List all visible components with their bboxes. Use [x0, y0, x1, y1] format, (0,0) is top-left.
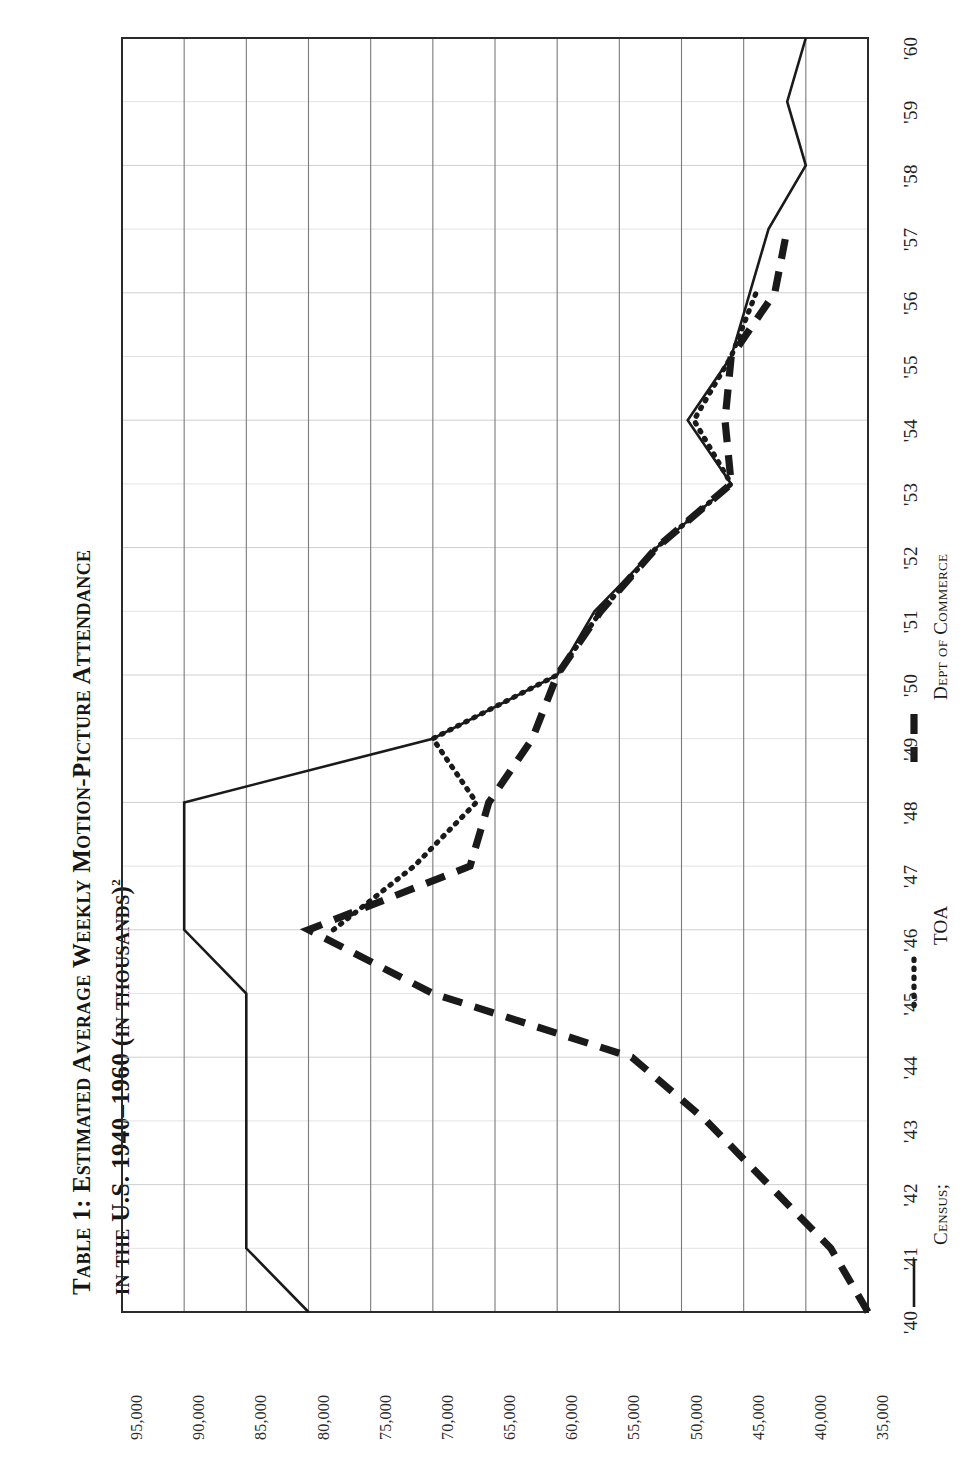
- year-tick-label: '45: [900, 992, 922, 1015]
- value-tick-label: 40,000: [812, 1395, 830, 1440]
- value-tick-label: 35,000: [874, 1395, 892, 1440]
- year-tick-label: '56: [900, 291, 922, 314]
- value-tick-label: 85,000: [252, 1395, 270, 1440]
- year-tick-label: '48: [900, 801, 922, 824]
- legend-label-toa: TOA: [930, 905, 952, 945]
- year-tick-label: '53: [900, 483, 922, 506]
- year-tick-label: '49: [900, 737, 922, 760]
- year-tick-label: '42: [900, 1183, 922, 1206]
- value-tick-label: 60,000: [563, 1395, 581, 1440]
- value-tick-label: 90,000: [190, 1395, 208, 1440]
- year-tick-label: '41: [900, 1247, 922, 1270]
- year-tick-label: '54: [900, 419, 922, 442]
- attendance-line-chart: [0, 0, 975, 1465]
- year-tick-label: '60: [900, 37, 922, 60]
- year-tick-label: '55: [900, 355, 922, 378]
- legend-label-dept-of-commerce: Dept of Commerce: [930, 554, 952, 700]
- series-line-dept-of-commerce: [309, 229, 869, 1312]
- year-tick-label: '44: [900, 1056, 922, 1079]
- value-tick-label: 55,000: [625, 1395, 643, 1440]
- year-tick-label: '43: [900, 1120, 922, 1143]
- year-tick-label: '59: [900, 100, 922, 123]
- year-tick-label: '50: [900, 674, 922, 697]
- value-tick-label: 50,000: [688, 1395, 706, 1440]
- year-tick-label: '51: [900, 610, 922, 633]
- year-tick-label: '47: [900, 865, 922, 888]
- year-tick-label: '52: [900, 546, 922, 569]
- year-tick-label: '58: [900, 164, 922, 187]
- legend-label-census-: Census;: [930, 1184, 952, 1245]
- value-tick-label: 95,000: [128, 1395, 146, 1440]
- year-tick-label: '57: [900, 228, 922, 251]
- year-tick-label: '40: [900, 1311, 922, 1334]
- value-tick-label: 70,000: [439, 1395, 457, 1440]
- value-tick-label: 80,000: [315, 1395, 333, 1440]
- value-tick-label: 75,000: [377, 1395, 395, 1440]
- value-tick-label: 45,000: [750, 1395, 768, 1440]
- year-tick-label: '46: [900, 928, 922, 951]
- value-tick-label: 65,000: [501, 1395, 519, 1440]
